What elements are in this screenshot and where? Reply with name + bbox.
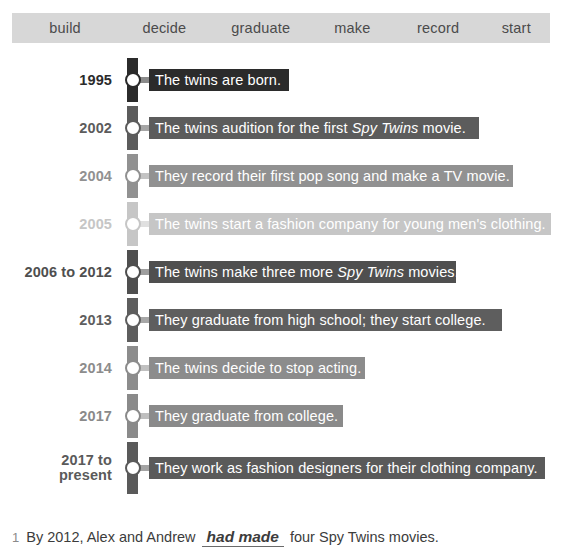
timeline-event-text: They record their first pop song and mak… [155, 168, 510, 184]
timeline-event-bar[interactable]: The twins decide to stop acting. [149, 357, 365, 379]
timeline-event-text: They graduate from college. [155, 408, 338, 424]
timeline-event-bar[interactable]: They record their first pop song and mak… [149, 165, 513, 187]
timeline-event-text: They work as fashion designers for their… [155, 460, 538, 476]
timeline-node-marker[interactable] [125, 360, 141, 376]
timeline-event-bar[interactable]: The twins are born. [149, 69, 289, 91]
word-bank-word-make[interactable]: make [311, 20, 394, 36]
word-bank-word-graduate[interactable]: graduate [211, 20, 311, 36]
timeline-node-marker[interactable] [125, 120, 141, 136]
word-bank-word-decide[interactable]: decide [118, 20, 211, 36]
timeline-row: 2013They graduate from high school; they… [0, 296, 562, 344]
timeline-year-label: 2006 to 2012 [0, 265, 112, 280]
timeline-row: 2014The twins decide to stop acting. [0, 344, 562, 392]
timeline-event-bar[interactable]: They work as fashion designers for their… [149, 457, 545, 479]
timeline-event-text: The twins start a fashion company for yo… [155, 216, 546, 232]
exercise-number: 1 [12, 530, 19, 545]
timeline-event-title-italic: Spy Twins [352, 120, 419, 136]
exercise-text-before: By 2012, Alex and Andrew [26, 529, 199, 545]
timeline-node-marker[interactable] [125, 264, 141, 280]
timeline-year-label: 1995 [0, 73, 112, 88]
timeline-event-text: The twins make three more [155, 264, 337, 280]
timeline-event-text: They graduate from high school; they sta… [155, 312, 486, 328]
timeline-node-marker[interactable] [125, 460, 141, 476]
exercise-sentence: 1By 2012, Alex and Andrew had made four … [12, 528, 552, 546]
word-bank-word-start[interactable]: start [483, 20, 550, 36]
timeline-event-text: The twins audition for the first [155, 120, 352, 136]
exercise-text-after: four Spy Twins movies. [286, 529, 439, 545]
timeline-node-marker[interactable] [125, 216, 141, 232]
timeline-event-title-italic: Spy Twins [337, 264, 404, 280]
timeline-year-label: 2004 [0, 169, 112, 184]
timeline-row: 1995The twins are born. [0, 56, 562, 104]
timeline-event-text-after: movie. [418, 120, 465, 136]
timeline-year-label: 2014 [0, 361, 112, 376]
timeline-year-label: 2017 [0, 409, 112, 424]
timeline-event-text: The twins are born. [155, 72, 281, 88]
timeline-row: 2005The twins start a fashion company fo… [0, 200, 562, 248]
timeline-event-bar[interactable]: They graduate from college. [149, 405, 343, 427]
word-bank-word-record[interactable]: record [394, 20, 483, 36]
timeline-year-label: 2002 [0, 121, 112, 136]
timeline-row: 2017They graduate from college. [0, 392, 562, 440]
timeline-row: 2002The twins audition for the first Spy… [0, 104, 562, 152]
timeline-node-marker[interactable] [125, 312, 141, 328]
timeline-row: 2004They record their first pop song and… [0, 152, 562, 200]
timeline-event-bar[interactable]: They graduate from high school; they sta… [149, 309, 502, 331]
timeline: 1995The twins are born.2002The twins aud… [0, 56, 562, 496]
exercise-answer-blank[interactable]: had made [202, 528, 284, 547]
timeline-event-text-after: movies. [404, 264, 459, 280]
timeline-event-bar[interactable]: The twins audition for the first Spy Twi… [149, 117, 479, 139]
timeline-node-marker[interactable] [125, 168, 141, 184]
timeline-year-label: 2005 [0, 217, 112, 232]
word-bank: builddecidegraduatemakerecordstart [12, 13, 550, 43]
timeline-event-text: The twins decide to stop acting. [155, 360, 361, 376]
timeline-node-marker[interactable] [125, 408, 141, 424]
timeline-node-marker[interactable] [125, 72, 141, 88]
timeline-event-bar[interactable]: The twins make three more Spy Twins movi… [149, 261, 456, 283]
timeline-year-label: 2013 [0, 313, 112, 328]
timeline-row: 2017 topresentThey work as fashion desig… [0, 440, 562, 496]
word-bank-word-build[interactable]: build [12, 20, 118, 36]
timeline-event-bar[interactable]: The twins start a fashion company for yo… [149, 213, 551, 235]
timeline-row: 2006 to 2012The twins make three more Sp… [0, 248, 562, 296]
timeline-year-label: 2017 topresent [0, 453, 112, 483]
